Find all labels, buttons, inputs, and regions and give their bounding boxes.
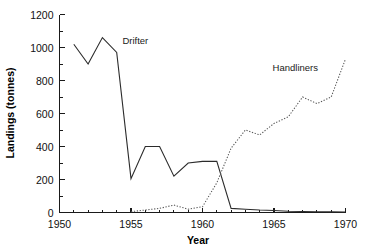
x-tick-label: 1960 (191, 218, 215, 230)
y-tick-label: 600 (36, 108, 54, 120)
chart-container: 020040060080010001200 195019551960196519… (0, 0, 367, 248)
y-tick-label: 200 (36, 174, 54, 186)
y-axis-major-ticks (60, 15, 65, 213)
x-tick-label: 1950 (48, 218, 72, 230)
x-tick-label: 1955 (119, 218, 143, 230)
y-tick-label: 1200 (30, 9, 54, 21)
x-axis-tick-labels: 19501955196019651970 (48, 218, 358, 230)
line-chart: 020040060080010001200 195019551960196519… (0, 0, 367, 248)
x-tick-label: 1970 (334, 218, 358, 230)
x-axis-title: Year (187, 234, 209, 246)
y-axis-tick-labels: 020040060080010001200 (30, 9, 54, 219)
series-label-drifter: Drifter (122, 35, 148, 46)
y-tick-label: 400 (36, 141, 54, 153)
y-axis-title: Landings (tonnes) (4, 68, 16, 159)
y-tick-label: 800 (36, 75, 54, 87)
y-tick-label: 1000 (30, 42, 54, 54)
x-tick-label: 1965 (262, 218, 286, 230)
series-label-handliners: Handliners (273, 62, 319, 73)
series-line-handliners (131, 59, 346, 212)
